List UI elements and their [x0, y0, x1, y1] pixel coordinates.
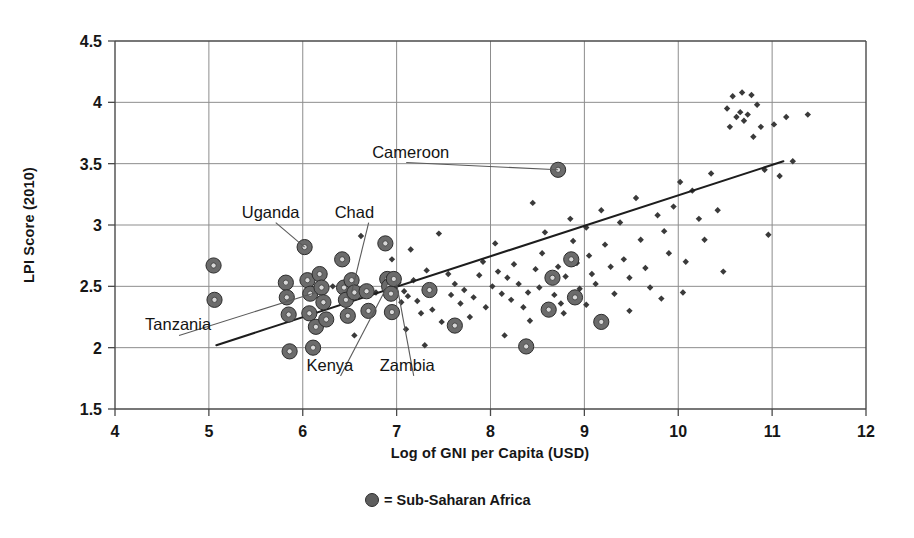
annotation-label-uganda: Uganda: [242, 203, 301, 221]
x-tick-label: 12: [857, 423, 875, 440]
ssa-marker-inner: [321, 300, 326, 305]
x-tick-label: 8: [486, 423, 495, 440]
data-point-other: [539, 250, 545, 256]
data-point-other: [351, 332, 357, 338]
data-point-sub-saharan-africa: [278, 275, 293, 290]
data-point-other: [720, 268, 726, 274]
data-point-other: [661, 228, 667, 234]
data-point-other: [499, 290, 505, 296]
data-point-sub-saharan-africa: [279, 290, 294, 305]
ssa-marker-inner: [340, 257, 345, 262]
ssa-marker-inner: [550, 275, 555, 280]
x-tick-label: 10: [669, 423, 687, 440]
ssa-marker-inner: [391, 276, 396, 281]
ssa-marker-inner: [569, 257, 574, 262]
data-point-sub-saharan-africa: [312, 266, 327, 281]
data-point-other: [602, 241, 608, 247]
data-point-other: [330, 283, 336, 289]
y-tick-label: 4: [93, 94, 102, 111]
ssa-marker-inner: [324, 317, 329, 322]
data-point-other: [476, 272, 482, 278]
data-point-sub-saharan-africa: [545, 270, 560, 285]
data-point-other: [511, 261, 517, 267]
data-point-other: [633, 195, 639, 201]
y-tick-label: 1.5: [80, 401, 102, 418]
data-point-other: [654, 212, 660, 218]
data-point-other: [642, 265, 648, 271]
annotation-leader-line: [276, 223, 305, 247]
data-point-sub-saharan-africa: [207, 292, 222, 307]
y-tick-label: 3: [93, 217, 102, 234]
x-axis-tick-labels: 456789101112: [111, 423, 875, 440]
data-point-other: [532, 266, 538, 272]
ssa-marker-inner: [389, 309, 394, 314]
data-point-other: [405, 293, 411, 299]
data-point-other: [638, 237, 644, 243]
data-point-other: [445, 271, 451, 277]
data-point-other: [626, 308, 632, 314]
ssa-marker-inner: [307, 311, 312, 316]
data-point-other: [658, 295, 664, 301]
legend-marker-sub-saharan-africa: [366, 494, 379, 507]
data-point-other: [542, 229, 548, 235]
ssa-marker-inner: [283, 280, 288, 285]
data-point-other: [621, 256, 627, 262]
data-point-other: [358, 233, 364, 239]
data-point-other: [562, 273, 568, 279]
data-point-other: [666, 250, 672, 256]
data-point-other: [708, 170, 714, 176]
data-point-other: [680, 289, 686, 295]
data-point-other: [467, 314, 473, 320]
data-point-sub-saharan-africa: [422, 282, 437, 297]
data-point-other: [765, 232, 771, 238]
data-point-sub-saharan-africa: [594, 314, 609, 329]
data-point-other: [551, 292, 557, 298]
data-point-other: [561, 310, 567, 316]
data-point-other: [501, 332, 507, 338]
data-point-other: [429, 306, 435, 312]
y-axis-tick-labels: 1.522.533.544.5: [80, 33, 102, 418]
data-point-other: [525, 289, 531, 295]
data-point-other: [729, 93, 735, 99]
data-point-other: [495, 268, 501, 274]
ssa-marker-inner: [388, 291, 393, 296]
data-point-other: [741, 118, 747, 124]
ssa-marker-inner: [546, 307, 551, 312]
data-point-other: [436, 230, 442, 236]
data-point-sub-saharan-africa: [361, 303, 376, 318]
data-point-other: [483, 304, 489, 310]
ssa-marker-inner: [383, 241, 388, 246]
ssa-marker-inner: [305, 278, 310, 283]
data-point-other: [607, 264, 613, 270]
ssa-marker-inner: [599, 319, 604, 324]
ssa-marker-inner: [345, 313, 350, 318]
ssa-marker-inner: [317, 271, 322, 276]
data-point-other: [504, 275, 510, 281]
x-tick-label: 6: [298, 423, 307, 440]
annotation-leader-line: [352, 223, 369, 293]
data-point-sub-saharan-africa: [567, 290, 582, 305]
ssa-marker-inner: [286, 312, 291, 317]
y-tick-label: 3.5: [80, 156, 102, 173]
data-point-other: [748, 92, 754, 98]
data-point-sub-saharan-africa: [206, 258, 221, 273]
data-point-other: [758, 124, 764, 130]
data-point-other: [418, 310, 424, 316]
data-point-sub-saharan-africa: [282, 344, 297, 359]
data-point-sub-saharan-africa: [319, 312, 334, 327]
ssa-marker-inner: [212, 297, 217, 302]
data-point-other: [570, 238, 576, 244]
x-tick-label: 7: [392, 423, 401, 440]
ssa-marker-inner: [452, 323, 457, 328]
data-point-other: [589, 271, 595, 277]
data-point-other: [647, 284, 653, 290]
legend: = Sub-Saharan Africa: [366, 492, 532, 508]
x-tick-label: 4: [111, 423, 120, 440]
data-point-sub-saharan-africa: [302, 306, 317, 321]
data-point-other: [724, 105, 730, 111]
data-point-sub-saharan-africa: [541, 302, 556, 317]
data-point-other: [530, 200, 536, 206]
data-point-sub-saharan-africa: [386, 271, 401, 286]
data-point-sub-saharan-africa: [378, 236, 393, 251]
data-point-other: [626, 275, 632, 281]
